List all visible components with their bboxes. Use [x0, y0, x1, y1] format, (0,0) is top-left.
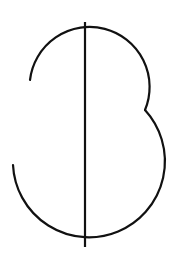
- diagram-canvas: [0, 0, 184, 262]
- figure-drawing: [0, 0, 184, 262]
- background: [0, 0, 184, 262]
